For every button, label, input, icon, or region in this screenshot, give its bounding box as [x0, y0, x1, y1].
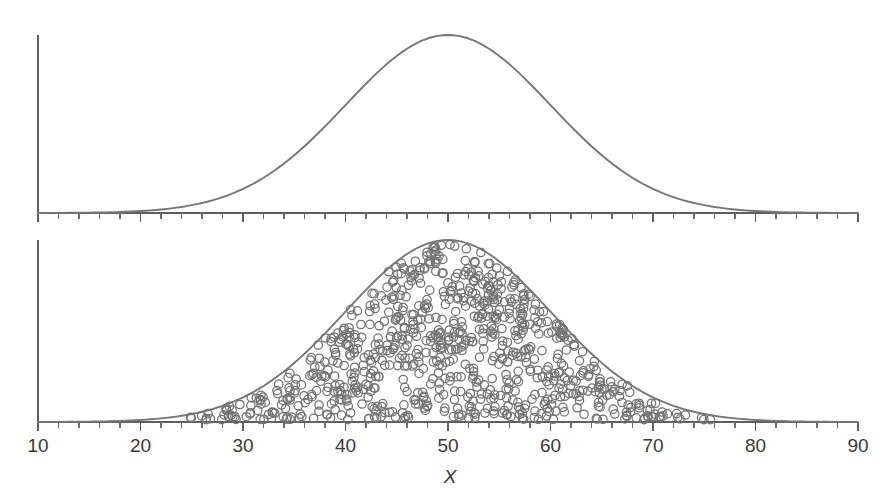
x-tick-label: 10 — [27, 435, 48, 456]
sample-observations-panel — [38, 240, 858, 431]
x-tick-label: 60 — [540, 435, 561, 456]
x-tick-label: 70 — [642, 435, 663, 456]
plot-canvas: 102030405060708090 X — [0, 0, 892, 497]
x-tick-label: 50 — [437, 435, 458, 456]
x-tick-label: 30 — [232, 435, 253, 456]
x-tick-label: 20 — [130, 435, 151, 456]
x-axis-title: X — [443, 466, 458, 487]
statistical-figure: 102030405060708090 X — [0, 0, 892, 497]
x-tick-label: 90 — [847, 435, 868, 456]
x-tick-label: 80 — [745, 435, 766, 456]
population-density-panel — [38, 35, 858, 222]
x-axis-labels: 102030405060708090 — [27, 435, 868, 456]
x-tick-label: 40 — [335, 435, 356, 456]
